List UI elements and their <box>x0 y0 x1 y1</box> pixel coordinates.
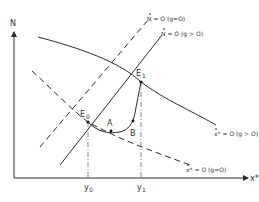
ndot-g-pos-label: N = O (g > O) <box>161 30 203 38</box>
xstar-g-zero-label: x* = O (g=O) <box>186 166 226 174</box>
label-E0: E <box>80 110 85 119</box>
label-E1: E <box>136 69 141 78</box>
xstar-g-pos-curve <box>38 37 216 125</box>
ndot-g-zero-label: N = O (g=O) <box>147 15 185 23</box>
xstar-g-pos-label: x* = O (g > O) <box>214 130 258 138</box>
svg-text:1: 1 <box>142 72 146 79</box>
label-A: A <box>107 119 113 128</box>
ndot-g-zero-line <box>40 20 148 147</box>
adjustment-path <box>88 82 141 133</box>
svg-text:1: 1 <box>142 186 146 193</box>
svg-text:0: 0 <box>89 186 93 193</box>
svg-text:0: 0 <box>86 113 90 120</box>
point-B <box>132 120 135 123</box>
label-B: B <box>130 129 136 138</box>
phase-diagram: N x* x* = O (g > O) x* = O (g=O) N = O (… <box>0 0 259 202</box>
x-axis-label: x* <box>250 174 259 183</box>
y-axis-label: N <box>10 19 16 28</box>
ndot-g-pos-line <box>60 35 162 165</box>
point-A <box>110 130 113 133</box>
xstar-g-zero-curve <box>32 71 190 165</box>
